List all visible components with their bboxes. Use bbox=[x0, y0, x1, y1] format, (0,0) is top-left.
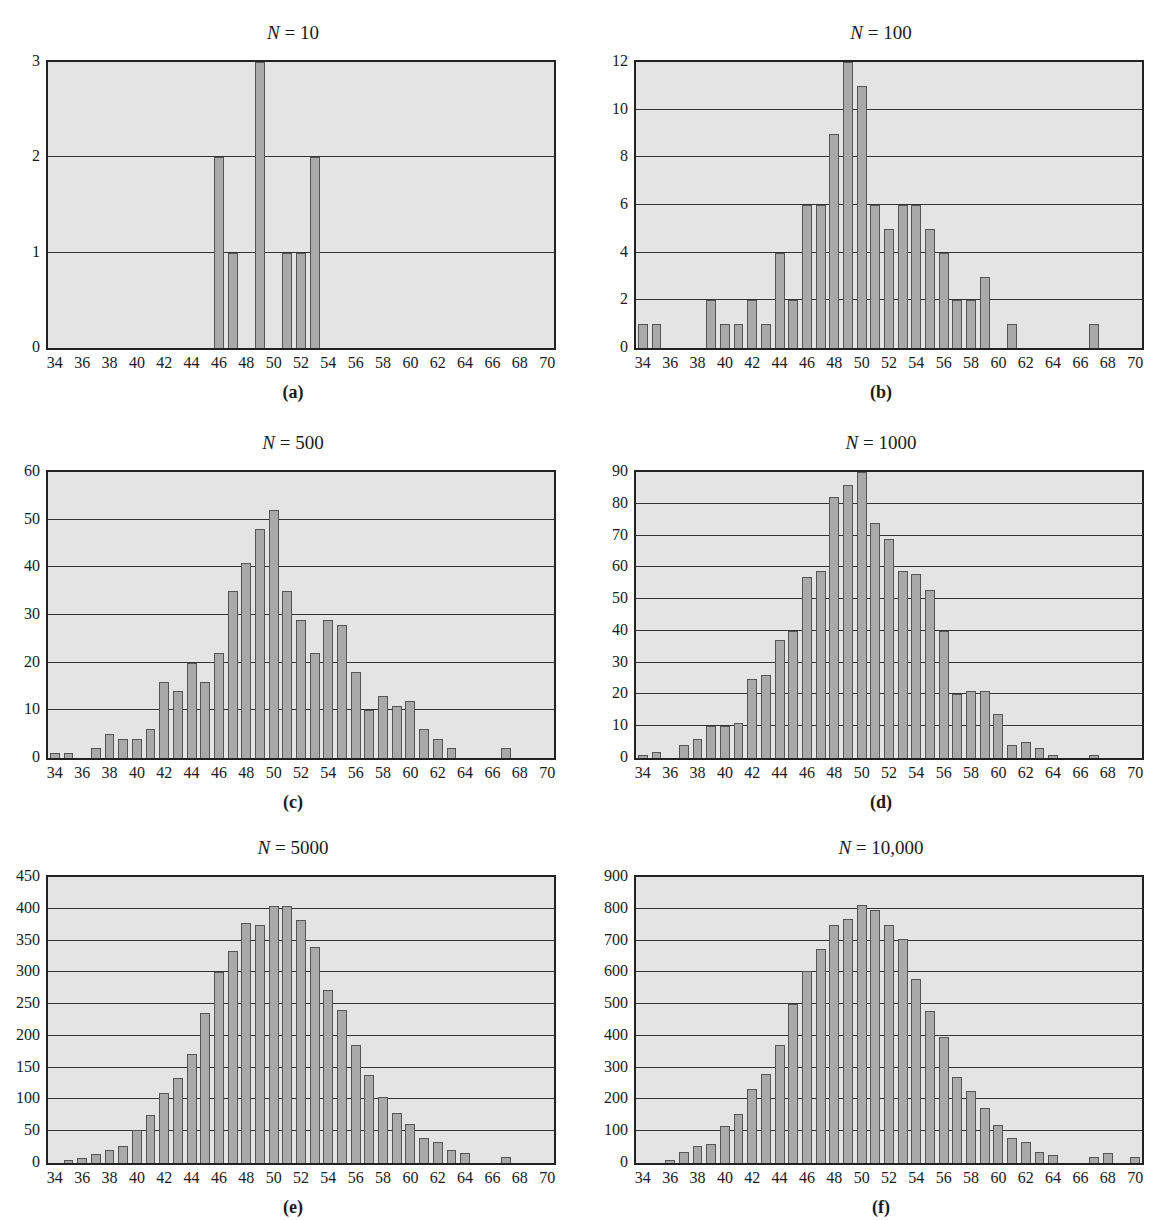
x-tick-label: 60 bbox=[395, 354, 425, 372]
histogram-bar bbox=[829, 497, 839, 758]
histogram-bar bbox=[1007, 745, 1017, 758]
gridline bbox=[48, 156, 554, 157]
x-tick-label: 38 bbox=[683, 764, 713, 782]
x-tick-label: 36 bbox=[655, 354, 685, 372]
histogram-bar bbox=[761, 324, 771, 348]
x-tick-label: 44 bbox=[177, 1169, 207, 1187]
histogram-bar bbox=[993, 1125, 1003, 1163]
histogram-bar bbox=[282, 253, 292, 348]
histogram-bar bbox=[214, 972, 224, 1163]
histogram-bar bbox=[693, 739, 703, 758]
gridline bbox=[636, 156, 1142, 157]
histogram-bar bbox=[91, 1154, 101, 1163]
x-tick-label: 46 bbox=[204, 764, 234, 782]
histogram-bar bbox=[1007, 1138, 1017, 1163]
histogram-bar bbox=[392, 1113, 402, 1163]
histogram-bar bbox=[118, 739, 128, 758]
histogram-bar bbox=[228, 591, 238, 758]
histogram-bar bbox=[980, 1108, 990, 1163]
histogram-bar bbox=[1021, 1142, 1031, 1163]
x-tick-label: 56 bbox=[929, 764, 959, 782]
histogram-bar bbox=[1103, 1153, 1113, 1163]
x-tick-label: 58 bbox=[368, 764, 398, 782]
x-tick-label: 54 bbox=[313, 1169, 343, 1187]
histogram-bar bbox=[925, 1011, 935, 1163]
y-tick-label: 250 bbox=[0, 994, 40, 1012]
histogram-bar bbox=[939, 253, 949, 348]
histogram-bar bbox=[105, 734, 115, 758]
histogram-bar bbox=[720, 324, 730, 348]
histogram-bar bbox=[378, 696, 388, 758]
histogram-bar bbox=[118, 1146, 128, 1163]
x-tick-label: 46 bbox=[792, 764, 822, 782]
x-tick-label: 52 bbox=[286, 1169, 316, 1187]
y-tick-label: 0 bbox=[0, 338, 40, 356]
x-tick-label: 60 bbox=[983, 354, 1013, 372]
histogram-bar bbox=[829, 925, 839, 1163]
gridline bbox=[636, 908, 1142, 909]
x-tick-label: 62 bbox=[423, 764, 453, 782]
y-tick-label: 50 bbox=[0, 510, 40, 528]
panel-label: (c) bbox=[0, 792, 586, 813]
histogram-bar bbox=[788, 1004, 798, 1163]
x-tick-label: 40 bbox=[122, 354, 152, 372]
histogram-bar bbox=[1007, 324, 1017, 348]
histogram-bar bbox=[870, 910, 880, 1163]
x-tick-label: 64 bbox=[1038, 764, 1068, 782]
y-tick-label: 50 bbox=[0, 1121, 40, 1139]
y-tick-label: 2 bbox=[588, 290, 628, 308]
y-tick-label: 8 bbox=[588, 147, 628, 165]
x-tick-label: 44 bbox=[177, 764, 207, 782]
y-tick-label: 200 bbox=[588, 1089, 628, 1107]
plot-area bbox=[46, 60, 556, 350]
histogram-bar bbox=[652, 324, 662, 348]
x-tick-label: 56 bbox=[341, 1169, 371, 1187]
histogram-bar bbox=[775, 1045, 785, 1163]
histogram-bar bbox=[911, 574, 921, 758]
y-tick-label: 800 bbox=[588, 899, 628, 917]
y-tick-label: 3 bbox=[0, 52, 40, 70]
histogram-bar bbox=[870, 205, 880, 348]
histogram-bar bbox=[652, 752, 662, 758]
x-tick-label: 50 bbox=[847, 354, 877, 372]
histogram-bar bbox=[77, 1158, 87, 1163]
y-tick-label: 0 bbox=[588, 338, 628, 356]
x-tick-label: 50 bbox=[847, 764, 877, 782]
y-tick-label: 80 bbox=[588, 494, 628, 512]
histogram-bar bbox=[884, 925, 894, 1163]
x-tick-label: 60 bbox=[395, 764, 425, 782]
histogram-bar bbox=[966, 691, 976, 758]
x-tick-label: 50 bbox=[259, 354, 289, 372]
x-tick-label: 64 bbox=[450, 1169, 480, 1187]
histogram-bar bbox=[734, 324, 744, 348]
x-tick-label: 36 bbox=[67, 764, 97, 782]
histogram-bar bbox=[173, 691, 183, 758]
x-tick-label: 58 bbox=[956, 764, 986, 782]
histogram-bar bbox=[638, 755, 648, 758]
histogram-bar bbox=[214, 653, 224, 758]
x-tick-label: 58 bbox=[956, 1169, 986, 1187]
x-tick-label: 70 bbox=[532, 354, 562, 372]
histogram-bar bbox=[296, 620, 306, 758]
x-tick-label: 66 bbox=[1065, 1169, 1095, 1187]
histogram-bar bbox=[364, 1075, 374, 1163]
histogram-bar bbox=[1035, 1152, 1045, 1163]
histogram-bar bbox=[829, 134, 839, 349]
x-tick-label: 42 bbox=[737, 764, 767, 782]
x-tick-label: 48 bbox=[231, 764, 261, 782]
x-tick-label: 68 bbox=[505, 764, 535, 782]
histogram-bar bbox=[980, 277, 990, 349]
histogram-bar bbox=[269, 906, 279, 1163]
x-tick-label: 62 bbox=[1011, 764, 1041, 782]
gridline bbox=[636, 204, 1142, 205]
y-tick-label: 1 bbox=[0, 243, 40, 261]
histogram-bar bbox=[816, 205, 826, 348]
y-tick-label: 450 bbox=[0, 867, 40, 885]
x-tick-label: 50 bbox=[259, 1169, 289, 1187]
x-tick-label: 36 bbox=[67, 354, 97, 372]
x-tick-label: 38 bbox=[95, 1169, 125, 1187]
y-tick-label: 6 bbox=[588, 195, 628, 213]
x-tick-label: 64 bbox=[450, 764, 480, 782]
histogram-bar bbox=[255, 62, 265, 348]
histogram-bar bbox=[241, 563, 251, 758]
